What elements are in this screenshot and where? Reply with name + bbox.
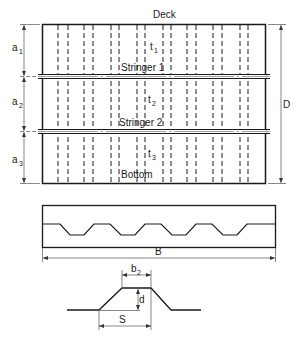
deck-label: Deck bbox=[153, 9, 177, 20]
depth-d-dimension bbox=[99, 289, 140, 311]
thickness-t1: t 1 bbox=[150, 41, 158, 54]
svg-text:2: 2 bbox=[152, 100, 156, 107]
plan-view: Deck S bbox=[12, 9, 290, 184]
depth-label: D bbox=[283, 99, 290, 110]
spacing-a1: a 1 bbox=[12, 42, 23, 55]
svg-text:a: a bbox=[12, 96, 18, 107]
svg-text:t: t bbox=[150, 41, 153, 52]
svg-text:t: t bbox=[148, 94, 151, 105]
trapezoid-profile bbox=[67, 288, 201, 310]
stringer-2-label: Stringer 2 bbox=[119, 117, 163, 128]
svg-text:t: t bbox=[148, 148, 151, 159]
svg-text:3: 3 bbox=[152, 154, 156, 161]
spacing-a2: a 2 bbox=[12, 96, 23, 109]
flange-label-b2: b 2 bbox=[131, 263, 141, 276]
svg-text:a: a bbox=[12, 154, 18, 165]
bottom-label: Bottom bbox=[121, 169, 153, 180]
width-label: B bbox=[155, 246, 162, 257]
svg-text:1: 1 bbox=[154, 47, 158, 54]
svg-text:2: 2 bbox=[137, 269, 141, 276]
stringer-2 bbox=[20, 129, 270, 134]
svg-text:1: 1 bbox=[19, 48, 23, 55]
svg-text:3: 3 bbox=[19, 160, 23, 167]
section-view: B bbox=[43, 206, 277, 263]
detail-view: b 2 d S bbox=[67, 263, 201, 330]
depth-d-label: d bbox=[139, 294, 145, 305]
spacing-dimension bbox=[20, 25, 40, 184]
thickness-t2: t 2 bbox=[148, 94, 156, 107]
section-outline bbox=[43, 206, 276, 248]
corrugated-profile bbox=[43, 224, 276, 235]
stringer-1-label: Stringer 1 bbox=[121, 62, 165, 73]
spacing-a3: a 3 bbox=[12, 154, 23, 167]
thickness-t3: t 3 bbox=[148, 148, 156, 161]
svg-text:2: 2 bbox=[19, 102, 23, 109]
hull-diagram: Deck S bbox=[0, 0, 301, 345]
stringer-1 bbox=[20, 74, 270, 79]
svg-text:a: a bbox=[12, 42, 18, 53]
pitch-label: S bbox=[119, 314, 126, 325]
